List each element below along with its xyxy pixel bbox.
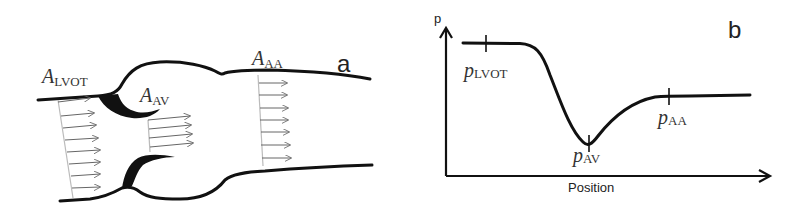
lvot-velocity-profile — [58, 98, 100, 198]
label-a-lvot: ALVOT — [40, 65, 88, 89]
aa-velocity-profile — [258, 75, 291, 166]
label-p-aa: pAA — [656, 106, 687, 129]
panel-a: a — [38, 47, 372, 201]
av-velocity-profile — [148, 116, 193, 152]
x-axis-label: Position — [568, 180, 614, 195]
vessel-bottom-wall — [60, 165, 372, 201]
panel-b: b p Position pLVOT pAV pAA — [434, 11, 770, 195]
valve-leaflet-bottom — [122, 155, 175, 188]
vessel-top-wall — [38, 62, 370, 100]
pressure-curve — [463, 43, 750, 144]
label-a-aa: AAA — [250, 47, 284, 71]
label-a-av: AAV — [138, 84, 170, 108]
panel-b-letter: b — [728, 16, 741, 43]
label-p-av: pAV — [571, 144, 601, 167]
label-p-lvot: pLVOT — [462, 59, 508, 82]
figure: a — [0, 0, 805, 211]
y-axis-label: p — [434, 11, 441, 26]
